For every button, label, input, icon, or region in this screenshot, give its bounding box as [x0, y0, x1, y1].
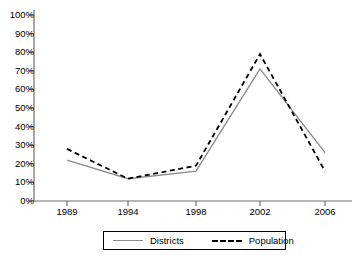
legend-swatch-solid-line-icon — [113, 236, 143, 245]
y-tick-label: 60% — [2, 84, 34, 94]
series-line-districts — [67, 69, 325, 179]
y-tick-label: 30% — [2, 140, 34, 150]
y-tick-label: 100% — [2, 10, 34, 20]
legend-label-population: Population — [249, 235, 294, 246]
legend-label-districts: Districts — [150, 235, 184, 246]
line-chart-svg — [0, 0, 360, 216]
x-tick-label: 1989 — [47, 206, 87, 217]
legend-item-population: Population — [212, 232, 294, 249]
y-tick-label: 90% — [2, 29, 34, 39]
y-tick-label: 80% — [2, 47, 34, 57]
chart-screenshot: 100% 90% 80% 70% 60% 50% 40% 30% 20% 10%… — [0, 0, 360, 256]
y-tick-label: 10% — [2, 177, 34, 187]
x-tick-label: 2002 — [240, 206, 280, 217]
chart-legend: Districts Population — [103, 231, 286, 250]
y-tick-label: 0% — [2, 196, 34, 206]
legend-item-districts: Districts — [113, 232, 184, 249]
y-tick-label: 20% — [2, 159, 34, 169]
y-tick-label: 70% — [2, 66, 34, 76]
y-tick-label: 50% — [2, 103, 34, 113]
x-tick-label: 2006 — [305, 206, 345, 217]
legend-swatch-dashed-line-icon — [212, 236, 242, 245]
y-tick-label: 40% — [2, 122, 34, 132]
x-tick-label: 1998 — [176, 206, 216, 217]
series-line-population — [67, 54, 325, 179]
x-tick-label: 1994 — [108, 206, 148, 217]
chart-plot-area: 100% 90% 80% 70% 60% 50% 40% 30% 20% 10%… — [0, 0, 360, 216]
y-axis-labels: 100% 90% 80% 70% 60% 50% 40% 30% 20% 10%… — [0, 0, 34, 216]
